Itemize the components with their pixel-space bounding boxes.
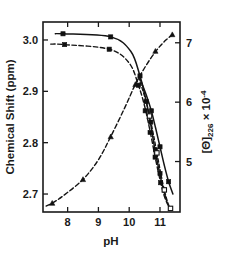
data-marker-triangle [50, 201, 55, 206]
y-tick-label: 2.7 [23, 188, 38, 200]
data-marker-open-square [162, 188, 166, 192]
y-tick-label: 3.0 [23, 34, 38, 46]
y2-exponent: -4 [199, 90, 208, 98]
data-marker-square [158, 145, 162, 149]
data-marker-square [109, 35, 113, 39]
y-axis-title: Chemical Shift (ppm) [4, 59, 16, 174]
chart-canvas: 8910113.02.92.82.7765 pH Chemical Shift … [0, 0, 228, 254]
x-tick-label: 9 [95, 216, 101, 228]
x-axis-title: pH [103, 235, 118, 247]
data-curves [46, 34, 174, 210]
y2-subscript: 226 [206, 123, 215, 137]
data-marker-open-square [168, 206, 172, 210]
data-marker-square [61, 32, 65, 36]
data-marker-square [148, 130, 152, 134]
x-axis-title-text: pH [103, 235, 118, 247]
data-marker-square [63, 43, 67, 47]
data-marker-square [138, 74, 142, 78]
data-marker-square [167, 180, 171, 184]
y2-times-ten: × 10 [200, 98, 212, 121]
data-marker-square [158, 171, 162, 175]
ph-titration-figure: 8910113.02.92.82.7765 pH Chemical Shift … [0, 0, 228, 254]
data-marker-triangle [80, 177, 85, 182]
ellipticity-226-curve [46, 34, 174, 206]
data-marker-square [149, 120, 153, 124]
x-tick-label: 10 [123, 216, 135, 228]
x-tick-label: 11 [154, 216, 166, 228]
y2-tick-label: 6 [186, 96, 192, 108]
data-marker-square [159, 181, 163, 185]
data-marker-square [144, 100, 148, 104]
y2-tick-label: 7 [186, 37, 192, 49]
y-axis-title-text: Chemical Shift (ppm) [4, 59, 16, 174]
data-marker-square [107, 47, 111, 51]
data-marker-triangle [108, 134, 113, 139]
data-marker-square [143, 109, 147, 113]
y-tick-label: 2.8 [23, 137, 38, 149]
y2-axis-title: [Θ]226 × 10-4 [199, 90, 215, 154]
data-marker-square [149, 109, 153, 113]
y2-axis-title-text: [Θ]226 × 10-4 [199, 90, 215, 154]
y-tick-label: 2.9 [23, 85, 38, 97]
data-markers [50, 32, 175, 211]
y2-tick-label: 5 [186, 156, 192, 168]
data-marker-triangle [170, 32, 175, 37]
y2-theta-bracket: [Θ] [200, 137, 212, 154]
data-marker-open-square [155, 151, 159, 155]
data-marker-open-square [147, 114, 151, 118]
x-tick-label: 8 [65, 216, 71, 228]
